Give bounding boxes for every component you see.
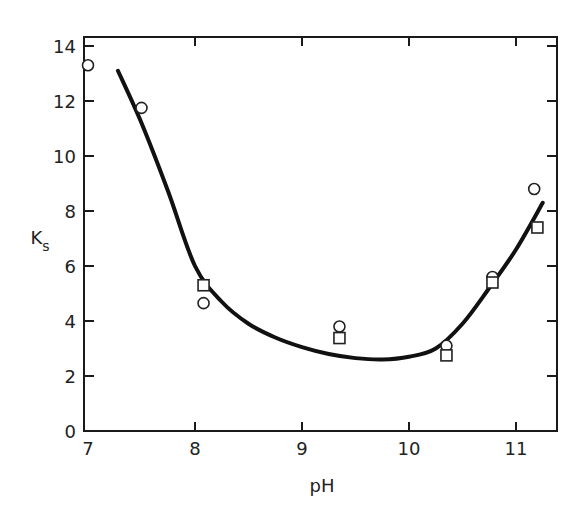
y-tick-label: 4 [65,311,76,332]
axes-box [84,37,557,431]
x-axis-ticks [195,37,516,431]
y-tick-label: 8 [65,201,76,222]
square-markers [198,222,543,361]
square-data-point [441,350,452,361]
circle-data-point [83,60,94,71]
y-tick-label: 2 [65,366,76,387]
y-tick-label: 14 [53,36,76,57]
ks-vs-ph-chart: 7891011 02468101214 pH Ks [0,0,586,512]
plot-frame [84,37,557,431]
fitted-curve [118,71,543,360]
circle-data-point [136,102,147,113]
x-tick-label: 10 [398,438,421,459]
x-tick-label: 9 [296,438,307,459]
circle-data-point [529,184,540,195]
y-axis-ticks [84,46,557,376]
circle-data-point [198,298,209,309]
y-axis-label-subscript: s [42,238,49,254]
x-tick-label: 8 [189,438,200,459]
circle-data-point [334,321,345,332]
y-axis-tick-labels: 02468101214 [53,36,76,442]
x-tick-label: 7 [82,438,93,459]
square-data-point [334,333,345,344]
y-axis-label: Ks [30,227,49,254]
square-data-point [198,280,209,291]
square-data-point [532,222,543,233]
x-tick-label: 11 [505,438,528,459]
y-tick-label: 0 [65,421,76,442]
square-data-point [487,277,498,288]
x-axis-label: pH [310,475,335,496]
x-axis-tick-labels: 7891011 [82,438,527,459]
y-tick-label: 12 [53,91,76,112]
circle-markers [83,60,540,352]
y-tick-label: 6 [65,256,76,277]
y-tick-label: 10 [53,146,76,167]
